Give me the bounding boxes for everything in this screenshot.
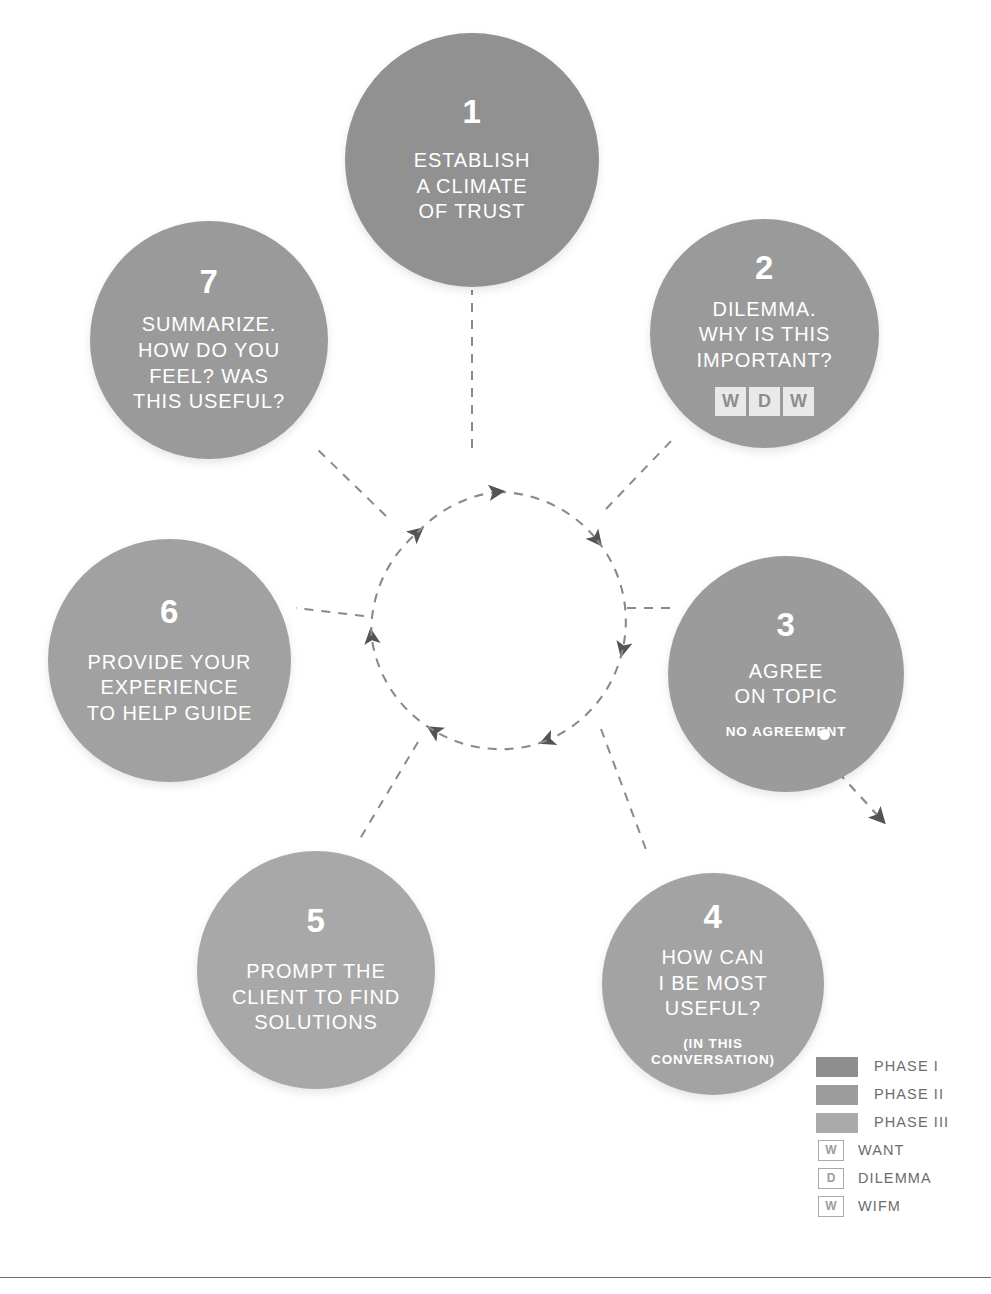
step-label: PROVIDE YOUR EXPERIENCE TO HELP GUIDE [87,650,252,727]
legend-label: PHASE III [874,1115,949,1130]
spoke-to-step-4 [601,729,648,855]
wdw-badge-dilemma: D [749,387,780,416]
step-label: PROMPT THE CLIENT TO FIND SOLUTIONS [232,959,400,1036]
spokes [296,290,672,855]
legend-box-want: W [818,1140,844,1161]
step-circle-7[interactable]: 7 SUMMARIZE. HOW DO YOU FEEL? WAS THIS U… [90,221,328,459]
legend-item-want: W WANT [816,1137,986,1164]
legend-item-dilemma: D DILEMMA [816,1165,986,1192]
step-circle-4[interactable]: 4 HOW CAN I BE MOST USEFUL? (IN THIS CON… [602,873,824,1095]
step-sublabel: (IN THIS CONVERSATION) [651,1036,775,1068]
step-number: 6 [160,595,179,628]
step-label: ESTABLISH A CLIMATE OF TRUST [414,148,531,225]
legend-swatch-phase-3 [816,1113,858,1133]
no-agreement-dot-icon [819,729,830,740]
legend-label: WIFM [858,1199,901,1214]
wdw-badge-wifm: W [783,387,814,416]
bottom-divider [0,1277,991,1278]
legend-label: DILEMMA [858,1171,932,1186]
legend-item-phase-3: PHASE III [816,1109,986,1136]
step-circle-6[interactable]: 6 PROVIDE YOUR EXPERIENCE TO HELP GUIDE [48,539,291,782]
step-number: 7 [200,265,219,298]
step-number: 4 [704,900,723,933]
legend-label: PHASE II [874,1087,944,1102]
spoke-to-step-2 [606,440,672,509]
wdw-badge-want: W [715,387,746,416]
spoke-to-step-7 [318,450,386,516]
step-label: SUMMARIZE. HOW DO YOU FEEL? WAS THIS USE… [133,312,285,414]
legend-box-wifm: W [818,1196,844,1217]
legend-swatch-phase-2 [816,1085,858,1105]
legend-swatch-phase-1 [816,1057,858,1077]
spoke-to-step-6 [296,608,364,616]
step-number: 1 [463,95,482,128]
step-number: 5 [307,904,326,937]
step-number: 3 [777,608,796,641]
legend-item-phase-2: PHASE II [816,1081,986,1108]
legend-label: WANT [858,1143,905,1158]
spoke-to-step-5 [358,742,418,842]
step-label: DILEMMA. WHY IS THIS IMPORTANT? [696,297,832,374]
step-number: 2 [755,251,774,284]
step-circle-3[interactable]: 3 AGREE ON TOPIC NO AGREEMENT [668,556,904,792]
step-label: AGREE ON TOPIC [734,659,837,710]
cycle-diagram: 1 ESTABLISH A CLIMATE OF TRUST 2 DILEMMA… [0,0,991,1294]
step-label: HOW CAN I BE MOST USEFUL? [658,945,767,1022]
step-circle-2[interactable]: 2 DILEMMA. WHY IS THIS IMPORTANT? W D W [650,219,879,448]
legend-item-phase-1: PHASE I [816,1053,986,1080]
legend-label: PHASE I [874,1059,939,1074]
legend-item-wifm: W WIFM [816,1193,986,1220]
legend-box-dilemma: D [818,1168,844,1189]
step-circle-5[interactable]: 5 PROMPT THE CLIENT TO FIND SOLUTIONS [197,851,435,1089]
wdw-badge-strip: W D W [715,387,814,416]
step-circle-1[interactable]: 1 ESTABLISH A CLIMATE OF TRUST [345,33,599,287]
central-dashed-ring [371,492,626,749]
legend: PHASE I PHASE II PHASE III W WANT D DILE… [816,1053,986,1221]
